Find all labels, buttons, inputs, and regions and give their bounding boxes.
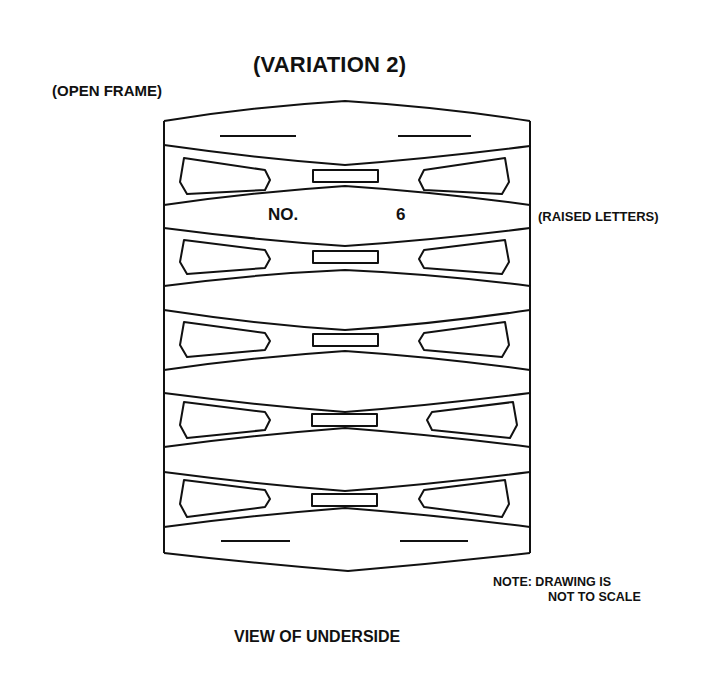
diagram-title: (VARIATION 2) xyxy=(253,52,406,78)
raised-letters-callout: (RAISED LETTERS) xyxy=(538,209,659,224)
view-caption: VIEW OF UNDERSIDE xyxy=(234,628,400,646)
row-1 xyxy=(164,145,530,205)
diagram-subtitle: (OPEN FRAME) xyxy=(52,82,162,99)
center-slot xyxy=(312,414,377,426)
center-slot xyxy=(313,251,378,263)
right-pocket xyxy=(419,158,509,194)
raised-text-number: 6 xyxy=(396,205,405,225)
center-slot xyxy=(313,170,378,182)
center-slot xyxy=(312,494,377,506)
left-pocket xyxy=(180,240,270,274)
left-pocket xyxy=(180,158,270,194)
left-pocket xyxy=(180,480,270,517)
row-5 xyxy=(164,472,530,527)
row-2 xyxy=(164,228,530,286)
left-pocket xyxy=(180,322,270,357)
bottom-cap-outline xyxy=(164,553,530,571)
left-pocket xyxy=(180,402,270,438)
scale-note-line-2: NOT TO SCALE xyxy=(548,590,641,604)
right-pocket xyxy=(419,480,509,517)
top-cap-outline xyxy=(164,101,530,121)
raised-text-no: NO. xyxy=(268,205,298,225)
center-slot xyxy=(313,334,378,346)
row-4 xyxy=(164,393,530,447)
right-pocket xyxy=(427,402,517,438)
frame-drawing xyxy=(0,0,719,674)
row-3 xyxy=(164,310,530,370)
right-pocket xyxy=(419,322,509,357)
scale-note-line-1: NOTE: DRAWING IS xyxy=(493,575,611,589)
right-pocket xyxy=(419,240,509,274)
